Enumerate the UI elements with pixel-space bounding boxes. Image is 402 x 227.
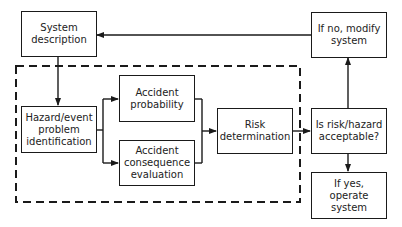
node-label: Is risk/hazard acceptable? [316,119,383,143]
node-acceptable-decision: Is risk/hazard acceptable? [311,108,387,154]
node-label: If no, modify system [318,23,381,47]
node-accident-probability: Accident probability [119,75,195,122]
node-label: System description [31,22,87,46]
node-if-no-modify: If no, modify system [311,12,387,58]
node-label: Accident probability [130,87,183,111]
node-label: Hazard/event problem identification [25,112,92,148]
node-if-yes-operate: If yes, operate system [311,172,387,219]
node-hazard-identification: Hazard/event problem identification [21,106,97,153]
node-system-description: System description [21,11,97,57]
node-label: Accident consequence evaluation [124,145,190,181]
node-label: If yes, operate system [330,178,369,214]
node-label: Risk determination [220,119,291,143]
node-accident-consequence: Accident consequence evaluation [119,140,195,186]
node-risk-determination: Risk determination [217,108,293,154]
